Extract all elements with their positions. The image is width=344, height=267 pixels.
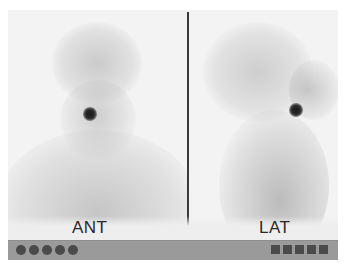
- scintigraphy-figure: ANT LAT: [8, 10, 338, 259]
- panel-divider: [187, 12, 189, 240]
- circle-marker-icon: [29, 245, 39, 255]
- anterior-view-panel: [8, 10, 187, 240]
- square-marker-icon: [319, 245, 328, 254]
- neck-uptake: [60, 80, 136, 160]
- square-marker-icon: [307, 245, 316, 254]
- focal-hotspot: [289, 103, 303, 117]
- footer-bar: [8, 240, 338, 260]
- focal-hotspot: [83, 107, 97, 121]
- square-marker-icon: [295, 245, 304, 254]
- circle-markers: [16, 245, 78, 255]
- circle-marker-icon: [42, 245, 52, 255]
- circle-marker-icon: [55, 245, 65, 255]
- circle-marker-icon: [68, 245, 78, 255]
- square-marker-icon: [271, 245, 280, 254]
- lat-label: LAT: [259, 218, 290, 238]
- square-markers: [271, 245, 328, 254]
- lateral-view-panel: [189, 10, 338, 240]
- circle-marker-icon: [16, 245, 26, 255]
- square-marker-icon: [283, 245, 292, 254]
- ant-label: ANT: [72, 218, 108, 238]
